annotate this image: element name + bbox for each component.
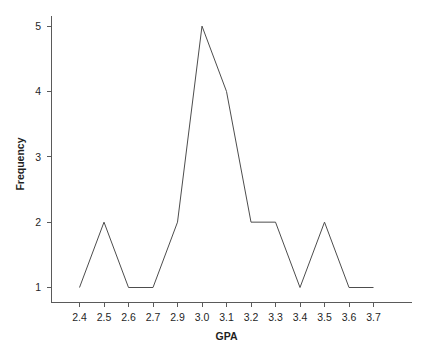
x-tick-label-2: 2.6 <box>121 311 136 323</box>
y-tick-label-2: 2 <box>35 216 41 228</box>
y-tick-label-4: 4 <box>35 85 41 97</box>
x-tick-label-8: 3.3 <box>268 311 283 323</box>
x-tick-label-3: 2.7 <box>146 311 161 323</box>
chart-canvas: 1 2 3 4 5 2.4 2.5 2.6 2.7 <box>0 0 427 351</box>
x-tick-label-6: 3.1 <box>219 311 234 323</box>
x-tick-label-9: 3.4 <box>293 311 308 323</box>
x-tick-label-7: 3.2 <box>244 311 259 323</box>
x-tick-label-12: 3.7 <box>366 311 381 323</box>
x-tick-label-0: 2.4 <box>72 311 87 323</box>
x-tick-label-5: 3.0 <box>195 311 210 323</box>
x-axis-title: GPA <box>216 330 238 342</box>
y-tick-label-3: 3 <box>35 151 41 163</box>
chart-figure: 1 2 3 4 5 2.4 2.5 2.6 2.7 <box>0 0 427 351</box>
y-tick-label-1: 1 <box>35 281 41 293</box>
x-tick-label-1: 2.5 <box>97 311 112 323</box>
x-tick-label-11: 3.6 <box>342 311 357 323</box>
x-tick-label-10: 3.5 <box>317 311 332 323</box>
x-tick-label-4: 2.9 <box>170 311 185 323</box>
plot-background <box>0 0 427 351</box>
y-tick-label-5: 5 <box>35 20 41 32</box>
y-axis-title: Frequency <box>14 137 26 190</box>
